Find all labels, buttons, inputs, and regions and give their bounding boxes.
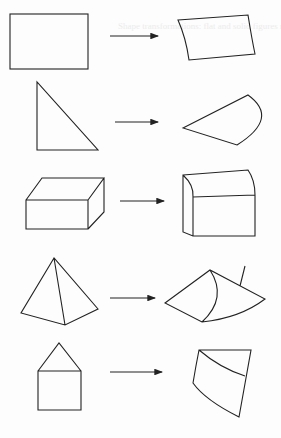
cone-section-shape (165, 266, 265, 322)
row-house (38, 343, 251, 417)
rectangular-prism-shape (26, 178, 104, 229)
circular-sector-shape (183, 95, 262, 145)
row-box (26, 170, 255, 236)
triangular-pyramid-shape (21, 258, 98, 325)
transform-diagram (0, 0, 281, 438)
right-triangle-shape (37, 82, 98, 150)
curved-quadrilateral-shape (178, 15, 255, 60)
pentagon-house-shape (38, 343, 81, 410)
curved-top-box-shape (183, 170, 255, 236)
row-triangle (37, 82, 262, 150)
row-pyramid (21, 258, 265, 325)
row-rectangle (10, 14, 255, 69)
rectangle-shape (10, 14, 88, 69)
curved-cylinder-segment-shape (193, 350, 251, 417)
